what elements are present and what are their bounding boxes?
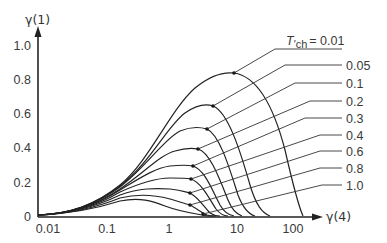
x-axis-arrow-icon <box>312 214 323 221</box>
series-label: 0.05 <box>346 59 370 73</box>
curve-1.0 <box>38 199 214 216</box>
y-tick: 0 <box>24 210 31 224</box>
series-label: 0.1 <box>346 77 363 91</box>
y-tick: 0.2 <box>14 176 31 190</box>
y-tick: 0.4 <box>14 141 31 155</box>
x-tick: 100 <box>283 222 304 236</box>
curve-0.1 <box>38 127 255 216</box>
legend-title: T′ch= 0.01 <box>286 34 344 50</box>
chart: γ(1) γ(4) 0 0.2 0.4 0.6 0.8 1.0 0.01 0.1… <box>0 0 387 243</box>
y-axis-arrow-icon <box>35 26 42 37</box>
series-label: 0.3 <box>346 112 363 126</box>
series-label: 1.0 <box>346 179 363 193</box>
x-axis-label: γ(4) <box>326 209 351 224</box>
series-label: 0.6 <box>346 145 363 159</box>
curves <box>38 73 303 216</box>
series-label: 0.4 <box>346 129 363 143</box>
x-tick: 0.01 <box>36 222 60 236</box>
series-label: 0.2 <box>346 95 363 109</box>
x-tick: 1 <box>166 222 173 236</box>
y-tick: 1.0 <box>14 39 31 53</box>
curve-0.6 <box>38 189 220 216</box>
y-axis-label: γ(1) <box>25 12 50 27</box>
x-tick: 10 <box>230 222 244 236</box>
series-label: 0.8 <box>346 162 363 176</box>
x-tick: 0.1 <box>98 222 115 236</box>
y-tick: 0.8 <box>14 73 31 87</box>
curve-0.01 <box>38 73 303 216</box>
y-tick: 0.6 <box>14 107 31 121</box>
curve-0.05 <box>38 105 270 216</box>
